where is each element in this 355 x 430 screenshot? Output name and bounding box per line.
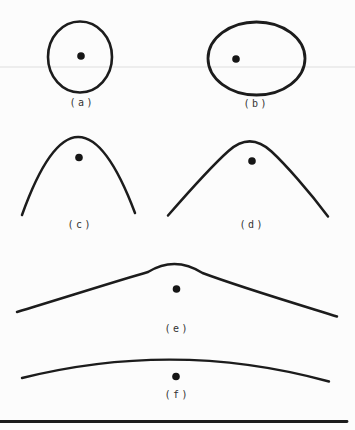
- panel-label-a: (a): [67, 97, 95, 109]
- dot-e: [173, 285, 181, 293]
- figure-canvas: (a) (b) (c) (d) (e) (f): [0, 0, 355, 430]
- panel-label-f: (f): [162, 389, 190, 401]
- panel-label-b: (b): [241, 98, 269, 110]
- arch-curve-d: [168, 141, 328, 216]
- panel-label-e: (e): [162, 323, 190, 335]
- dot-d: [248, 157, 256, 165]
- dot-a: [77, 52, 85, 60]
- dot-c: [75, 154, 83, 162]
- shapes-layer: [0, 0, 355, 430]
- panel-label-c: (c): [65, 219, 93, 231]
- dot-f: [172, 373, 180, 381]
- panel-label-d: (d): [237, 219, 265, 231]
- dot-b: [232, 55, 240, 63]
- arch-curve-c: [22, 137, 135, 215]
- ellipse-shape-b: [208, 22, 305, 95]
